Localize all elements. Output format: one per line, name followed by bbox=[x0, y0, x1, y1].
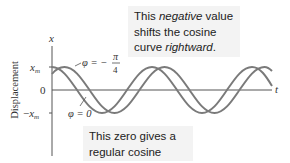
callout-emph-rightward: rightward bbox=[165, 41, 212, 53]
negative-phase-callout: This negative value shifts the cosine cu… bbox=[128, 6, 240, 57]
phi-neg-pi-4-leader bbox=[75, 63, 81, 66]
callout-zero-text: This zero gives a regular cosine curve. bbox=[89, 130, 176, 163]
tick-label-xm: xm bbox=[29, 61, 40, 75]
callout-text-1: This bbox=[134, 10, 159, 22]
callout-text-3: . bbox=[213, 41, 216, 53]
zero-phase-callout: This zero gives a regular cosine curve. bbox=[83, 126, 193, 161]
tick-label-neg-xm: −xm bbox=[23, 107, 39, 121]
y-axis-label: x bbox=[48, 32, 54, 44]
phi-frac-den: 4 bbox=[113, 65, 118, 75]
displacement-label: Displacement bbox=[9, 61, 20, 119]
phi-zero-label: φ = 0 bbox=[68, 108, 92, 119]
phi-frac-num: π bbox=[113, 51, 119, 62]
tick-label-zero: 0 bbox=[40, 84, 46, 96]
phi-neg-pi-4-label: φ = − bbox=[82, 57, 107, 68]
t-axis-label: t bbox=[275, 83, 279, 95]
callout-emph-negative: negative bbox=[159, 10, 202, 22]
